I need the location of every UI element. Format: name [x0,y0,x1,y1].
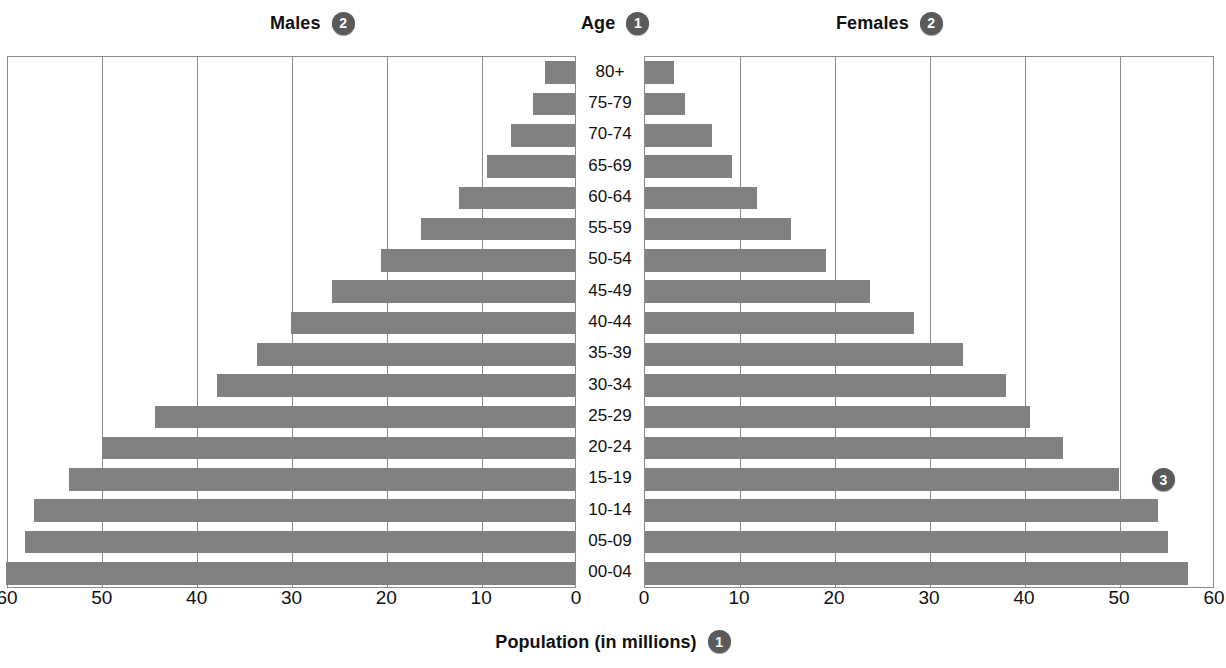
bar-males-40-44 [291,312,576,335]
bar-males-60-64 [459,187,575,210]
bar-males-80+ [545,61,575,84]
bar-females-65-69 [645,155,732,178]
bar-row [645,499,1213,522]
x-axis-ticks: 60504030201000102030405060 [0,588,1226,620]
x-axis-title: Population (in millions) 1 [0,630,1226,653]
age-label-10-14: 10-14 [576,501,644,518]
bar-males-55-59 [421,218,575,241]
age-label-70-74: 70-74 [576,125,644,142]
bar-females-30-34 [645,374,1006,397]
bar-row [8,531,575,554]
bar-females-25-29 [645,406,1030,429]
bar-males-35-39 [257,343,575,366]
bar-row [645,280,1213,303]
x-tick-right-30: 30 [899,588,959,607]
bar-females-35-39 [645,343,963,366]
x-tick-left-0: 0 [546,588,606,607]
age-header: Age 1 [581,8,649,38]
bar-row [8,61,575,84]
bar-females-75-79 [645,93,685,116]
age-label-60-64: 60-64 [576,188,644,205]
bar-row [645,374,1213,397]
bar-row [8,562,575,585]
bar-females-55-59 [645,218,791,241]
chart-header: Males 2 Age 1 Females 2 [0,0,1226,56]
bar-row [8,374,575,397]
age-label-80+: 80+ [576,63,644,80]
bar-row [645,187,1213,210]
bar-females-05-09 [645,531,1168,554]
age-label-40-44: 40-44 [576,313,644,330]
bar-row [645,218,1213,241]
age-group-labels: 80+75-7970-7465-6960-6455-5950-5445-4940… [576,56,644,588]
bar-row [8,468,575,491]
bar-males-65-69 [487,155,575,178]
bar-males-25-29 [155,406,575,429]
females-bars [645,57,1213,587]
bar-males-20-24 [102,437,575,460]
age-label-05-09: 05-09 [576,532,644,549]
age-label-65-69: 65-69 [576,157,644,174]
callout-badge-1-axis: 1 [708,630,731,653]
bar-males-15-19 [69,468,575,491]
x-tick-right-40: 40 [994,588,1054,607]
bar-females-70-74 [645,124,712,147]
females-header: Females 2 [836,8,943,38]
x-tick-right-20: 20 [804,588,864,607]
callout-badge-2-females: 2 [920,12,943,35]
bar-row [645,61,1213,84]
callout-badge-1-age: 1 [626,12,649,35]
age-label-50-54: 50-54 [576,250,644,267]
bar-row [645,562,1213,585]
bar-males-75-79 [533,93,575,116]
age-label-00-04: 00-04 [576,563,644,580]
x-tick-left-20: 20 [356,588,416,607]
x-tick-left-50: 50 [72,588,132,607]
bar-females-50-54 [645,249,826,272]
bar-row [645,124,1213,147]
males-panel [7,56,576,588]
bar-females-10-14 [645,499,1158,522]
bar-row [8,343,575,366]
age-label-75-79: 75-79 [576,94,644,111]
callout-badge-3: 3 [1152,468,1175,491]
bar-row [8,93,575,116]
age-label-45-49: 45-49 [576,282,644,299]
bar-row [8,312,575,335]
bar-males-30-34 [217,374,575,397]
x-tick-left-30: 30 [262,588,322,607]
bar-row [645,531,1213,554]
bar-females-15-19 [645,468,1119,491]
bar-row [8,280,575,303]
bar-row [645,155,1213,178]
age-label-25-29: 25-29 [576,407,644,424]
x-tick-right-60: 60 [1184,588,1226,607]
bar-row [645,406,1213,429]
bar-row [645,249,1213,272]
age-label-30-34: 30-34 [576,376,644,393]
x-tick-right-50: 50 [1089,588,1149,607]
callout-badge-2-males: 2 [332,12,355,35]
bar-males-45-49 [332,280,575,303]
bar-males-00-04 [6,562,575,585]
bar-males-50-54 [381,249,575,272]
x-tick-left-60: 60 [0,588,37,607]
bar-row [645,93,1213,116]
males-header: Males 2 [270,8,355,38]
bar-females-40-44 [645,312,914,335]
bar-row [8,218,575,241]
males-bars [8,57,575,587]
bar-row [645,468,1213,491]
bar-row [8,155,575,178]
bar-males-70-74 [511,124,575,147]
bar-females-60-64 [645,187,757,210]
bar-males-10-14 [34,499,575,522]
bar-row [8,499,575,522]
females-panel [644,56,1214,588]
bar-females-00-04 [645,562,1188,585]
bar-row [645,343,1213,366]
bar-row [8,437,575,460]
x-axis-title-label: Population (in millions) [495,633,696,651]
age-label-55-59: 55-59 [576,219,644,236]
age-label-35-39: 35-39 [576,344,644,361]
